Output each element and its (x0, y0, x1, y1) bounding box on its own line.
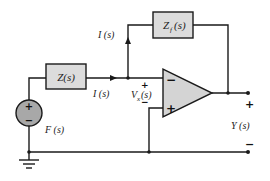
wire-zf-to-output (193, 25, 228, 93)
output-plus-sign: + (245, 98, 254, 111)
feedback-current-label: I (s) (97, 29, 115, 41)
wire-source-to-z (29, 78, 46, 100)
wires (29, 25, 248, 160)
feedback-impedance-box (153, 12, 193, 38)
vx-minus-sign: − (141, 97, 149, 107)
source-plus-sign: + (25, 101, 33, 112)
input-current-label: I (s) (92, 88, 110, 100)
opamp-noninverting-sign: + (166, 102, 176, 116)
feedback-current-arrow-icon (125, 37, 131, 44)
feedback-impedance-label-tail: (s) (174, 19, 186, 32)
input-impedance-label: Z(s) (57, 71, 75, 84)
opamp-inverting-sign: − (166, 73, 176, 87)
ground-icon (19, 160, 39, 168)
wire-noninverting-to-ground (149, 108, 163, 152)
circuit-diagram: Z(s) Z f (s) − + + − F (s) I (s) I (s) +… (0, 0, 270, 181)
source-minus-sign: − (25, 115, 33, 126)
current-arrow-icon (110, 75, 117, 81)
output-label: Y (s) (231, 120, 250, 132)
output-minus-sign: − (245, 138, 254, 151)
source-label: F (s) (44, 124, 65, 136)
feedback-impedance-label-main: Z (163, 19, 170, 31)
wire-junction-to-zf (128, 25, 153, 78)
